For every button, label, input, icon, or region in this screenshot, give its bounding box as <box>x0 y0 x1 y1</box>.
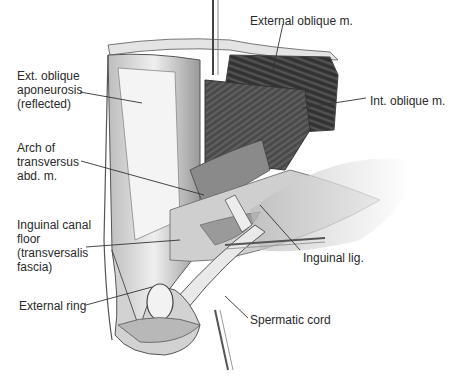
label-inguinal-lig: Inguinal lig. <box>303 251 364 265</box>
label-int-oblique-m: Int. oblique m. <box>370 94 445 108</box>
label-arch-of-transversus: Arch of transversus abd. m. <box>17 141 79 183</box>
label-spermatic-cord: Spermatic cord <box>250 313 331 327</box>
label-ext-oblique-aponeurosis: Ext. oblique aponeurosis (reflected) <box>17 69 82 111</box>
anatomical-illustration: External oblique m. Ext. oblique aponeur… <box>0 0 451 382</box>
illustration-drawing <box>0 0 451 382</box>
label-external-ring: External ring <box>19 299 86 313</box>
label-inguinal-canal-floor: Inguinal canal floor (transversalis fasc… <box>17 218 91 274</box>
label-external-oblique-m: External oblique m. <box>250 14 353 28</box>
